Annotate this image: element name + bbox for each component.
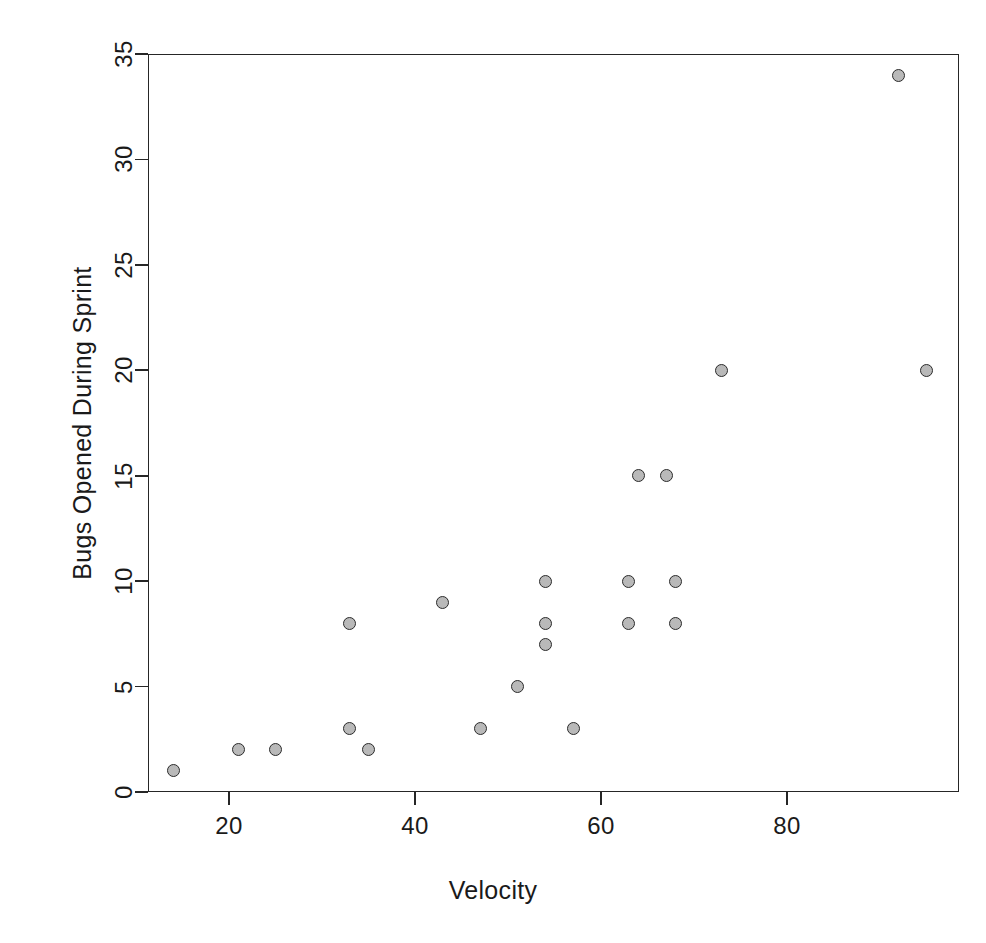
y-axis-tick-label: 35 [110, 34, 138, 74]
x-axis-tick [228, 792, 230, 805]
plot-frame [148, 54, 959, 792]
scatter-plot-figure: 20406080 05101520253035 Velocity Bugs Op… [0, 0, 986, 943]
y-axis-label: Bugs Opened During Sprint [62, 54, 102, 792]
y-axis-tick-label: 20 [110, 350, 138, 390]
y-axis-tick-label: 15 [110, 456, 138, 496]
x-axis-tick-label: 20 [215, 812, 243, 840]
x-axis-tick-label: 40 [401, 812, 429, 840]
x-axis-tick-label: 60 [587, 812, 615, 840]
x-axis-tick [600, 792, 602, 805]
y-axis-tick-label: 0 [110, 772, 138, 812]
y-axis-tick-label: 25 [110, 245, 138, 285]
y-axis-tick-label: 30 [110, 139, 138, 179]
x-axis-tick-label: 80 [773, 812, 801, 840]
x-axis-tick [414, 792, 416, 805]
x-axis-label: Velocity [0, 876, 986, 905]
y-axis-tick-label: 10 [110, 561, 138, 601]
y-axis-tick-label: 5 [110, 667, 138, 707]
x-axis-tick [786, 792, 788, 805]
